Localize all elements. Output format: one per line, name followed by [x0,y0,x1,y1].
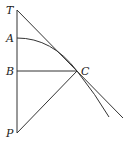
label-p: P [5,127,14,140]
arc-ac [17,38,109,117]
segment-pc [17,71,77,133]
tangent-line-tc [17,10,123,118]
label-b: B [5,65,14,78]
label-t: T [6,4,15,17]
label-a: A [5,32,14,45]
geometry-diagram: T A B C P [0,0,132,143]
label-c: C [81,65,90,78]
